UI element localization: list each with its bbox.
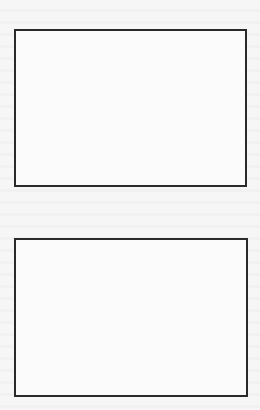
empty-image-frame-bottom [14,238,248,397]
document-page [0,0,260,410]
empty-image-frame-top [14,29,247,187]
